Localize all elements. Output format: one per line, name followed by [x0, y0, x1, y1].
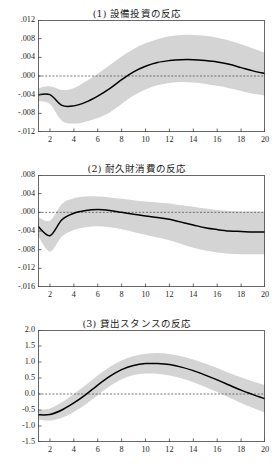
- x-tick-label: 4: [72, 445, 76, 454]
- x-tick-label: 14: [189, 445, 197, 454]
- x-tick-label: 14: [189, 290, 197, 299]
- y-tick-label: .008: [21, 171, 35, 179]
- plot-svg: [38, 20, 265, 132]
- x-tick-label: 18: [237, 135, 245, 144]
- plot-svg: [38, 175, 265, 287]
- x-tick-label: 16: [213, 290, 221, 299]
- plot-area: .008.004.000-.004-.008-.012-.01624681012…: [38, 175, 265, 287]
- x-tick-label: 4: [72, 135, 76, 144]
- x-tick-label: 12: [165, 290, 173, 299]
- top-cut-text: [0, 0, 274, 7]
- plot-svg: [38, 330, 265, 442]
- y-tick-label: -0.5: [22, 406, 35, 414]
- x-tick-label: 8: [120, 135, 124, 144]
- x-tick-label: 20: [261, 290, 269, 299]
- y-tick-label: .012: [21, 16, 35, 24]
- y-tick-label: -1.0: [22, 422, 35, 430]
- y-tick-label: 1.0: [25, 358, 35, 366]
- y-tick-label: .008: [21, 35, 35, 43]
- x-tick-label: 2: [48, 135, 52, 144]
- y-tick-label: -.012: [18, 128, 35, 136]
- x-tick-label: 16: [213, 135, 221, 144]
- y-tick-label: 0.5: [25, 374, 35, 382]
- x-tick-label: 20: [261, 445, 269, 454]
- x-tick-label: 18: [237, 290, 245, 299]
- impulse-response-figure: (1) 設備投資の反応 .012.008.004.000-.004-.008-.…: [0, 0, 274, 469]
- panel-title: (3) 貸出スタンスの反応: [0, 318, 274, 330]
- panel-title: (1) 設備投資の反応: [0, 8, 274, 20]
- x-tick-label: 10: [141, 290, 149, 299]
- panel-title: (2) 耐久財消費の反応: [0, 163, 274, 175]
- y-tick-label: .004: [21, 53, 35, 61]
- x-tick-label: 2: [48, 290, 52, 299]
- x-tick-label: 6: [96, 445, 100, 454]
- y-tick-label: 1.5: [25, 342, 35, 350]
- y-tick-label: -1.5: [22, 438, 35, 446]
- plot-area: .012.008.004.000-.004-.008-.012246810121…: [38, 20, 265, 132]
- x-tick-label: 10: [141, 135, 149, 144]
- y-tick-label: -.012: [18, 264, 35, 272]
- x-tick-label: 14: [189, 135, 197, 144]
- y-tick-label: -.016: [18, 283, 35, 291]
- y-tick-label: .000: [21, 72, 35, 80]
- y-tick-label: -.008: [18, 109, 35, 117]
- y-tick-label: .000: [21, 208, 35, 216]
- confidence-band: [38, 35, 265, 124]
- y-tick-label: .004: [21, 190, 35, 198]
- x-tick-label: 8: [120, 290, 124, 299]
- y-tick-label: 2.0: [25, 326, 35, 334]
- x-tick-label: 12: [165, 135, 173, 144]
- x-tick-label: 10: [141, 445, 149, 454]
- x-tick-label: 18: [237, 445, 245, 454]
- y-tick-label: -.004: [18, 227, 35, 235]
- y-tick-label: -.004: [18, 91, 35, 99]
- confidence-band: [38, 196, 265, 254]
- x-tick-label: 16: [213, 445, 221, 454]
- x-tick-label: 20: [261, 135, 269, 144]
- x-tick-label: 6: [96, 290, 100, 299]
- x-tick-label: 4: [72, 290, 76, 299]
- y-tick-label: -.008: [18, 246, 35, 254]
- plot-area: 2.01.51.00.50.0-0.5-1.0-1.52468101214161…: [38, 330, 265, 442]
- x-tick-label: 12: [165, 445, 173, 454]
- x-tick-label: 8: [120, 445, 124, 454]
- x-tick-label: 2: [48, 445, 52, 454]
- y-tick-label: 0.0: [25, 390, 35, 398]
- x-tick-label: 6: [96, 135, 100, 144]
